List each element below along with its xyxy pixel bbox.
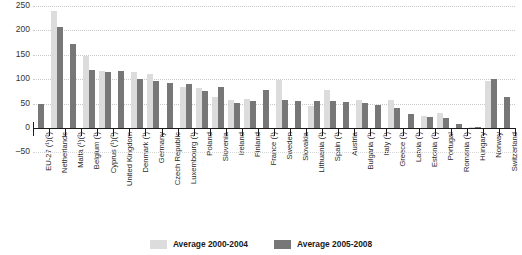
bar	[218, 87, 224, 128]
y-axis-tick-label: –50	[0, 147, 30, 156]
x-axis-tick	[210, 128, 211, 136]
bar-group	[258, 6, 274, 128]
bar-group	[354, 6, 370, 128]
bar-group	[242, 6, 258, 128]
x-axis-tick	[451, 128, 452, 136]
bar-group	[419, 6, 435, 128]
bar-group	[274, 6, 290, 128]
x-axis-tick	[467, 128, 468, 136]
x-axis-category-label: Bulgaria (¹)	[366, 132, 375, 224]
bar	[282, 100, 288, 128]
bar	[250, 101, 256, 128]
y-axis-tick-label: 200	[0, 25, 30, 34]
x-axis-category-label: Greece (¹)	[398, 132, 407, 224]
bar-group	[226, 6, 242, 128]
bar-group	[467, 6, 483, 128]
x-axis-category-labels: EU-27 (¹)(²)NetherlandsMalta (¹)(²)Belgi…	[33, 132, 515, 228]
x-axis-tick	[65, 128, 66, 136]
bar-group	[162, 6, 178, 128]
x-axis-tick	[194, 128, 195, 136]
x-axis-tick	[322, 128, 323, 136]
bar-group	[322, 6, 338, 128]
x-axis-category-label: Italy (¹)	[382, 132, 391, 224]
x-axis-tick	[419, 128, 420, 136]
bar-group	[81, 6, 97, 128]
bar	[295, 101, 301, 128]
bar	[57, 27, 63, 129]
x-axis-category-label: Cyprus (¹)(²)	[109, 132, 118, 224]
x-axis-tick	[515, 128, 516, 136]
x-axis-tick	[242, 128, 243, 136]
bar-group	[49, 6, 65, 128]
x-axis-tick	[499, 128, 500, 136]
bar	[314, 101, 320, 128]
y-axis-tick-label: 50	[0, 99, 30, 108]
bar	[70, 44, 76, 128]
x-axis-tick	[338, 128, 339, 136]
x-axis-tick	[258, 128, 259, 136]
bar	[186, 84, 192, 128]
bar	[362, 103, 368, 128]
y-axis-tick-label: 0	[0, 123, 30, 132]
bar	[202, 91, 208, 128]
y-axis: –50050100150200250	[0, 0, 30, 255]
x-axis-tick	[162, 128, 163, 136]
x-axis-category-label: Switzerland	[510, 132, 519, 224]
bar-group	[210, 6, 226, 128]
x-axis-tick	[274, 128, 275, 136]
legend-swatch-icon	[150, 240, 167, 249]
bar	[234, 103, 240, 128]
legend-label: Average 2005-2008	[297, 239, 372, 249]
bar	[427, 117, 433, 128]
x-axis-category-label: Slovakia	[301, 132, 310, 224]
bar	[330, 101, 336, 128]
x-axis-tick	[435, 128, 436, 136]
x-axis-tick	[306, 128, 307, 136]
y-axis-tick-label: 100	[0, 74, 30, 83]
bar	[105, 72, 111, 128]
x-axis-category-label: Finland	[253, 132, 262, 224]
x-axis-category-label: Ireland	[237, 132, 246, 224]
x-axis-category-label: Norway	[494, 132, 503, 224]
bar-group	[435, 6, 451, 128]
x-axis-category-label: Netherlands	[60, 132, 69, 224]
x-axis-category-label: Poland	[205, 132, 214, 224]
x-axis-tick	[97, 128, 98, 136]
bar-group	[338, 6, 354, 128]
x-axis-category-label: Spain (¹)	[333, 132, 342, 224]
legend-swatch-icon	[274, 240, 291, 249]
bar-group	[97, 6, 113, 128]
legend-label: Average 2000-2004	[173, 239, 248, 249]
bar-group	[403, 6, 419, 128]
bar	[263, 90, 269, 128]
bar-group	[451, 6, 467, 128]
x-axis-category-label: Hungary	[478, 132, 487, 224]
x-axis-tick	[386, 128, 387, 136]
bar	[375, 105, 381, 128]
bar	[89, 70, 95, 128]
x-axis-category-label: Belgium (¹)	[92, 132, 101, 224]
bar-group	[113, 6, 129, 128]
legend-item-0: Average 2000-2004	[150, 239, 248, 249]
bar	[504, 97, 510, 128]
bar	[153, 81, 159, 128]
x-axis-tick	[33, 128, 34, 136]
bar-group	[194, 6, 210, 128]
legend-item-1: Average 2005-2008	[274, 239, 372, 249]
bar-group	[499, 6, 515, 128]
chart-legend: Average 2000-2004 Average 2005-2008	[0, 239, 522, 249]
x-axis-category-label: Germany	[157, 132, 166, 224]
bar-group	[386, 6, 402, 128]
bar-series-container	[33, 6, 515, 128]
x-axis-tick	[113, 128, 114, 136]
x-axis-category-label: Sweden	[285, 132, 294, 224]
x-axis-category-label: Austria	[350, 132, 359, 224]
bar-group	[178, 6, 194, 128]
gridline	[33, 152, 515, 153]
x-axis-category-label: Latvia (¹)	[414, 132, 423, 224]
bar-group	[306, 6, 322, 128]
x-axis-tick	[226, 128, 227, 136]
bar-group	[33, 6, 49, 128]
bar-group	[370, 6, 386, 128]
bar	[343, 102, 349, 128]
